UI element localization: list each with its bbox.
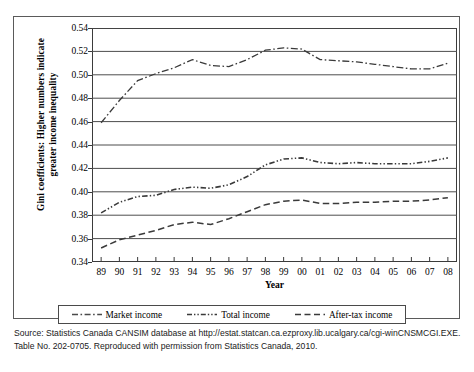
x-tick-label: 93 bbox=[169, 267, 179, 277]
y-tick-label: 0.44 bbox=[71, 140, 88, 150]
y-tick-label: 0.52 bbox=[71, 46, 88, 56]
x-tick-label: 89 bbox=[96, 267, 106, 277]
y-tick-mark bbox=[88, 192, 92, 193]
y-axis-title-line-1: Gini coefficients: Higher numbers indica… bbox=[36, 0, 48, 250]
legend-label-total-income: Total income bbox=[221, 310, 270, 320]
x-tick-label: 95 bbox=[206, 267, 216, 277]
x-tick-label: 90 bbox=[115, 267, 125, 277]
y-tick-mark bbox=[88, 239, 92, 240]
legend-item-market-income: Market income bbox=[72, 310, 163, 320]
y-tick-label: 0.46 bbox=[71, 117, 88, 127]
x-tick-label: 96 bbox=[224, 267, 234, 277]
x-tick-label: 00 bbox=[297, 267, 307, 277]
y-tick-mark bbox=[88, 75, 92, 76]
legend-line-after-tax-income bbox=[295, 311, 325, 318]
x-tick-label: 08 bbox=[443, 267, 453, 277]
plot-area: 0.340.360.380.400.420.440.460.480.500.52… bbox=[92, 28, 457, 262]
y-tick-mark bbox=[88, 145, 92, 146]
series-line-market-income bbox=[101, 48, 448, 123]
source-note: Source: Statistics Canada CANSIM databas… bbox=[14, 327, 464, 352]
y-axis-title-line-2: greater income inequality bbox=[47, 0, 59, 250]
chart-series-layer bbox=[92, 28, 457, 262]
legend-item-total-income: Total income bbox=[187, 310, 270, 320]
x-tick-label: 98 bbox=[261, 267, 271, 277]
y-tick-label: 0.40 bbox=[71, 187, 88, 197]
x-axis-title: Year bbox=[92, 279, 457, 290]
y-tick-mark bbox=[88, 98, 92, 99]
y-tick-mark bbox=[88, 51, 92, 52]
y-tick-label: 0.42 bbox=[71, 163, 88, 173]
figure-container: Gini coefficients: Higher numbers indica… bbox=[0, 0, 474, 372]
y-tick-label: 0.48 bbox=[71, 93, 88, 103]
legend-label-market-income: Market income bbox=[106, 310, 163, 320]
x-tick-label: 92 bbox=[151, 267, 161, 277]
x-tick-label: 99 bbox=[279, 267, 289, 277]
x-tick-label: 04 bbox=[370, 267, 380, 277]
y-tick-label: 0.34 bbox=[71, 257, 88, 267]
x-tick-label: 02 bbox=[334, 267, 344, 277]
y-tick-label: 0.38 bbox=[71, 210, 88, 220]
y-tick-mark bbox=[88, 262, 92, 263]
series-line-total-income bbox=[101, 158, 448, 213]
x-tick-label: 03 bbox=[352, 267, 362, 277]
x-tick-label: 06 bbox=[407, 267, 417, 277]
y-tick-label: 0.54 bbox=[71, 23, 88, 33]
legend-line-market-income bbox=[72, 311, 102, 318]
chart-legend: Market income Total income After-tax inc… bbox=[58, 305, 406, 324]
legend-item-after-tax-income: After-tax income bbox=[295, 310, 393, 320]
x-tick-label: 91 bbox=[133, 267, 143, 277]
y-tick-mark bbox=[88, 122, 92, 123]
x-tick-label: 94 bbox=[188, 267, 198, 277]
chart-frame: Gini coefficients: Higher numbers indica… bbox=[13, 16, 460, 319]
x-tick-label: 05 bbox=[388, 267, 398, 277]
x-tick-label: 97 bbox=[242, 267, 252, 277]
y-axis-title: Gini coefficients: Higher numbers indica… bbox=[36, 0, 59, 250]
x-tick-label: 07 bbox=[425, 267, 435, 277]
y-tick-mark bbox=[88, 28, 92, 29]
x-tick-label: 01 bbox=[315, 267, 325, 277]
series-line-after-tax-income bbox=[101, 198, 448, 248]
y-tick-label: 0.50 bbox=[71, 70, 88, 80]
y-tick-label: 0.36 bbox=[71, 234, 88, 244]
legend-line-total-income bbox=[187, 311, 217, 318]
y-tick-mark bbox=[88, 168, 92, 169]
legend-label-after-tax-income: After-tax income bbox=[329, 310, 393, 320]
y-tick-mark bbox=[88, 215, 92, 216]
